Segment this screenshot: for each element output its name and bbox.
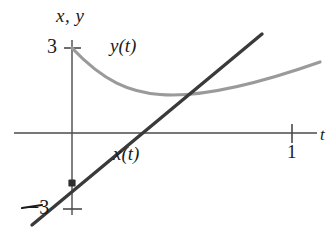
horizontal-axis-label: t xyxy=(320,126,325,143)
curve-x-of-t xyxy=(32,34,262,225)
y-tick-label-3: 3 xyxy=(47,36,57,56)
vertical-axis-label: x, y xyxy=(56,6,84,25)
x-intercept-dot xyxy=(68,179,75,186)
curve-label-y-of-t: y(t) xyxy=(110,36,136,55)
figure-container: x, y t 3 −3 1 y(t) x(t) xyxy=(0,0,336,229)
y-tick-label-negative-3: −3 xyxy=(28,197,49,217)
curve-label-x-of-t: x(t) xyxy=(113,144,139,163)
t-tick-label-1: 1 xyxy=(287,142,297,161)
